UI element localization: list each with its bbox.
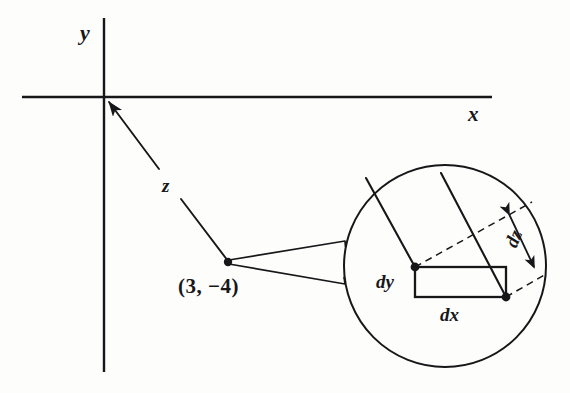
rect-corner-dot-lower-right (502, 293, 511, 302)
vector-z-group (109, 102, 232, 266)
magnifier-funnel (229, 241, 346, 284)
y-axis-label: y (80, 22, 90, 44)
x-axis-label: x (468, 104, 479, 125)
point-coordinate-label: (3, −4) (178, 276, 239, 297)
axis-group (22, 18, 492, 372)
dz-dashed-guide-lower (506, 274, 546, 297)
figure-vector-graphics (0, 0, 570, 393)
magnified-ray-left (366, 178, 415, 267)
rect-corner-dot-upper-left (411, 263, 420, 272)
dy-label: dy (376, 272, 394, 291)
dx-label: dx (440, 305, 459, 324)
figure-canvas: y x z (3, −4) dy dx dz (0, 0, 570, 393)
vector-z-segment-upper (109, 102, 159, 169)
vector-z-label: z (162, 176, 169, 195)
vector-z-segment-lower (181, 199, 228, 261)
